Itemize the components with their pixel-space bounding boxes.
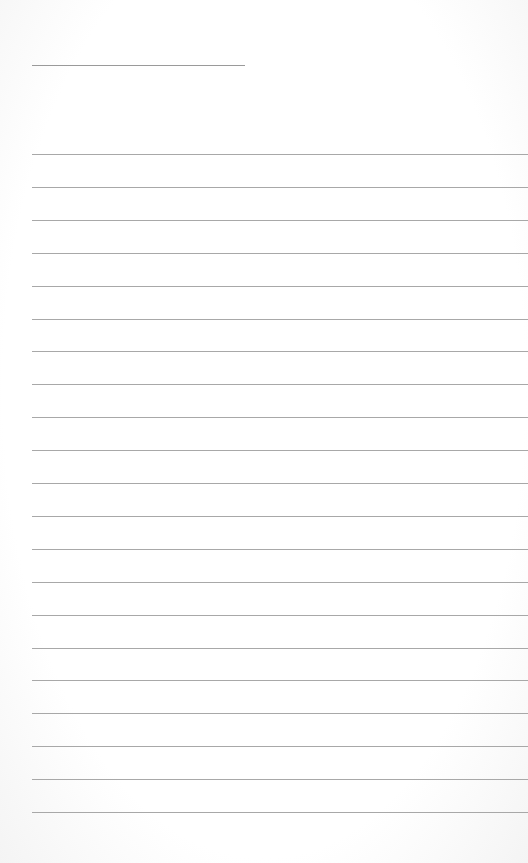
ruled-line (32, 582, 528, 583)
ruled-line (32, 549, 528, 550)
ruled-line (32, 648, 528, 649)
ruled-line (32, 220, 528, 221)
ruled-line (32, 680, 528, 681)
ruled-line (32, 483, 528, 484)
ruled-line (32, 746, 528, 747)
ruled-line (32, 516, 528, 517)
ruled-line (32, 779, 528, 780)
ruled-line (32, 450, 528, 451)
ruled-line (32, 187, 528, 188)
ruled-line (32, 615, 528, 616)
ruled-line (32, 154, 528, 155)
ruled-line (32, 351, 528, 352)
ruled-line (32, 286, 528, 287)
ruled-line (32, 417, 528, 418)
ruled-line (32, 812, 528, 813)
lined-paper (0, 0, 528, 863)
ruled-line (32, 384, 528, 385)
ruled-line (32, 319, 528, 320)
ruled-line (32, 713, 528, 714)
header-name-line (32, 65, 245, 66)
ruled-line (32, 253, 528, 254)
